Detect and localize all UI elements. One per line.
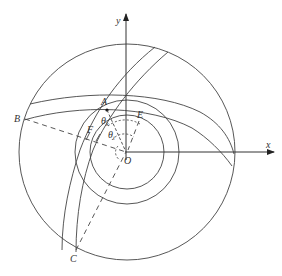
geometry-diagram: y x O A B C E F θk θi	[0, 0, 282, 276]
label-point-C: C	[70, 253, 77, 264]
angle-arc-small	[116, 146, 120, 160]
label-point-F: F	[86, 124, 94, 135]
label-point-B: B	[14, 113, 20, 124]
angle-arc-theta-i	[112, 134, 134, 140]
label-point-E: E	[136, 109, 143, 120]
dashed-line-E-O	[128, 121, 139, 150]
angle-arc-theta-k	[108, 120, 140, 126]
label-theta-i: θi	[108, 129, 115, 141]
dashed-line-C-O	[76, 152, 126, 250]
label-theta-k: θk	[101, 115, 109, 127]
arc-band-outer-top	[30, 95, 234, 154]
label-y-axis: y	[115, 15, 121, 26]
label-origin: O	[124, 155, 131, 166]
label-point-A: A	[100, 96, 108, 107]
label-x-axis: x	[265, 139, 271, 150]
